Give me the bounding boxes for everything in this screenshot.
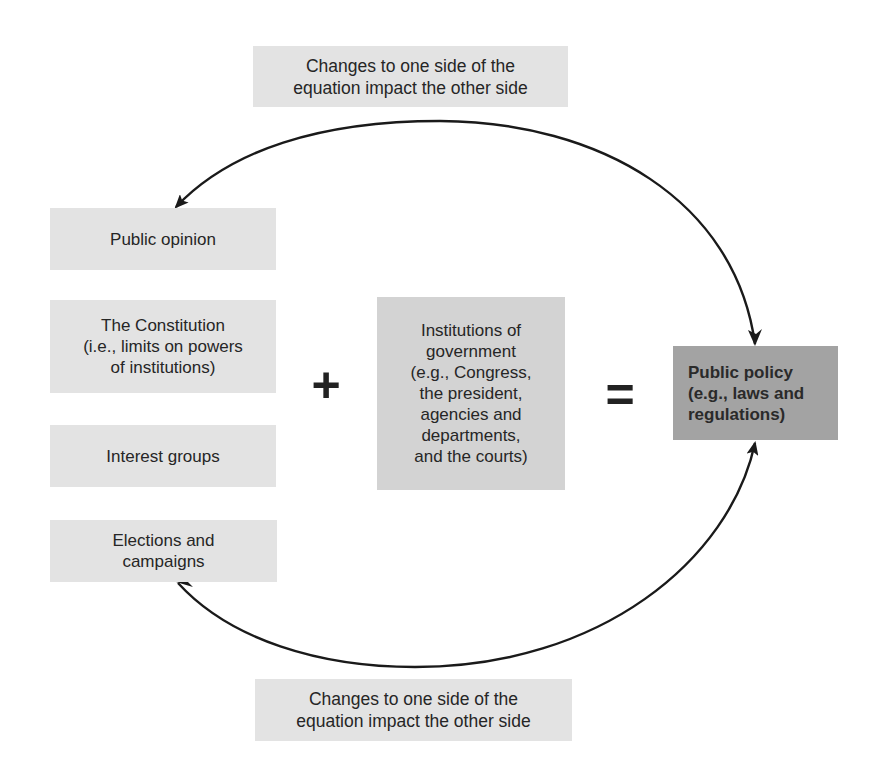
equals-operator: = xyxy=(602,370,638,420)
arrowhead-into-policy-top xyxy=(748,329,762,346)
input-public-opinion: Public opinion xyxy=(50,208,276,270)
input-elections-campaigns: Elections and campaigns xyxy=(50,520,277,582)
plus-operator: + xyxy=(308,360,344,410)
bottom-feedback-note: Changes to one side of the equation impa… xyxy=(255,679,572,741)
institutions-of-government: Institutions of government (e.g., Congre… xyxy=(377,297,565,490)
input-constitution: The Constitution (i.e., limits on powers… xyxy=(50,300,276,393)
public-policy-output: Public policy (e.g., laws and regulation… xyxy=(673,346,838,440)
input-interest-groups: Interest groups xyxy=(50,425,276,487)
top-feedback-note: Changes to one side of the equation impa… xyxy=(253,46,568,107)
